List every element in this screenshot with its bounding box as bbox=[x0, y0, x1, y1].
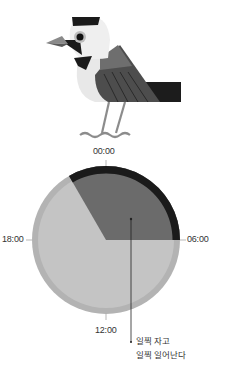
label-18: 18:00 bbox=[2, 234, 24, 244]
label-06: 06:00 bbox=[187, 234, 209, 244]
bird-icon bbox=[0, 0, 225, 140]
annotation-line-2: 일찍 일어난다 bbox=[136, 348, 186, 362]
label-00: 00:00 bbox=[93, 146, 115, 156]
annotation-line-1: 일찍 자고 bbox=[136, 334, 186, 348]
label-12: 12:00 bbox=[95, 325, 117, 335]
annotation-text: 일찍 자고 일찍 일어난다 bbox=[136, 334, 186, 362]
annotation-end-dot bbox=[130, 341, 132, 343]
